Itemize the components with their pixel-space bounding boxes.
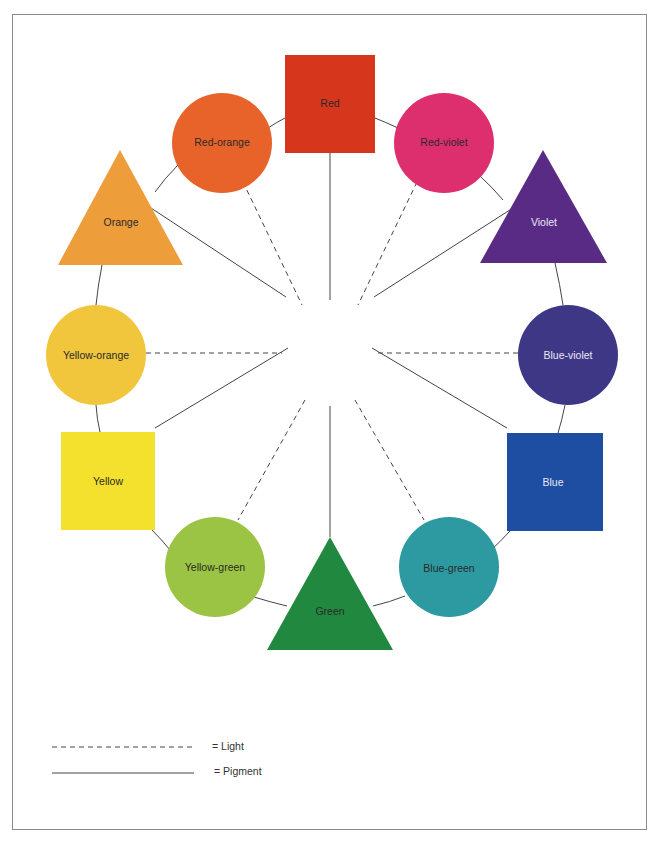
legend-label-pigment: = Pigment	[214, 765, 262, 777]
node-yellow-orange: Yellow-orange	[46, 305, 146, 405]
node-yellow-green: Yellow-green	[165, 517, 265, 617]
spokes	[146, 153, 518, 537]
node-yellow: Yellow	[61, 432, 155, 530]
node-red-violet: Red-violet	[394, 93, 494, 193]
color-wheel-diagram: Red Red-violet Violet Blue-violet Blue B…	[0, 0, 658, 841]
node-label-blue: Blue	[542, 476, 563, 488]
node-label-green: Green	[315, 605, 344, 617]
node-blue: Blue	[507, 433, 603, 531]
node-green: Green	[267, 537, 393, 650]
node-violet: Violet	[480, 150, 607, 263]
node-label-yellow: Yellow	[93, 475, 123, 487]
node-label-orange: Orange	[103, 216, 138, 228]
node-red: Red	[285, 55, 375, 153]
node-label-yellow-orange: Yellow-orange	[63, 349, 129, 361]
spoke-red-violet	[358, 182, 417, 305]
node-label-yellow-green: Yellow-green	[185, 561, 245, 573]
spoke-yellow-green	[238, 400, 305, 520]
node-blue-violet: Blue-violet	[518, 305, 618, 405]
node-red-orange: Red-orange	[172, 93, 272, 193]
node-label-blue-green: Blue-green	[423, 562, 475, 574]
spoke-blue-green	[355, 400, 424, 520]
node-orange: Orange	[58, 150, 183, 265]
spoke-blue	[372, 348, 507, 428]
legend: = Light = Pigment	[52, 740, 262, 777]
node-blue-green: Blue-green	[399, 517, 499, 617]
node-label-red-violet: Red-violet	[420, 136, 467, 148]
node-label-violet: Violet	[531, 216, 557, 228]
spoke-red-orange	[243, 182, 302, 305]
spoke-yellow	[155, 348, 288, 428]
node-label-blue-violet: Blue-violet	[543, 349, 592, 361]
legend-label-light: = Light	[212, 740, 244, 752]
node-label-red-orange: Red-orange	[194, 136, 250, 148]
node-label-red: Red	[320, 97, 339, 109]
